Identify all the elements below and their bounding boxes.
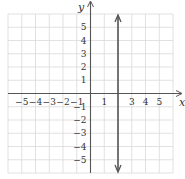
axes [8,1,182,173]
y-tick-label: −1 [73,102,86,112]
y-tick-label: 5 [81,22,87,32]
y-tick-label: 4 [81,36,87,46]
x-tick-label: 5 [156,97,162,107]
x-tick-label: 1 [101,97,107,107]
y-tick-label: 2 [81,62,87,72]
y-tick-label: 1 [81,75,87,85]
y-tick-label: 3 [81,49,87,59]
x-tick-label: −3 [43,97,57,107]
x-tick-label: −4 [29,97,43,107]
x-tick-label: −2 [56,97,69,107]
x-tick-label: −5 [15,97,29,107]
coordinate-plane: −5−4−3−2−1134554321−1−2−3−4−5 x y [0,0,185,179]
x-tick-label: 3 [129,97,135,107]
x-tick-label: 4 [143,97,149,107]
y-tick-label: −5 [73,155,87,165]
y-tick-label: −2 [73,115,86,125]
y-tick-label: −3 [73,128,87,138]
y-tick-label: −4 [73,142,87,152]
y-axis-label: y [77,1,85,14]
x-axis-label: x [179,96,185,109]
